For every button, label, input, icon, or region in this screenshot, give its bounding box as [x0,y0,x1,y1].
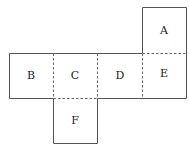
face-b-label: B [27,69,35,82]
face-a-label: A [159,24,169,37]
face-f-label: F [71,114,79,127]
face-e-label: E [160,67,168,80]
face-c-label: C [71,69,79,82]
cube-net-diagram: A B C D E F [0,0,189,149]
face-d-label: D [116,69,125,82]
